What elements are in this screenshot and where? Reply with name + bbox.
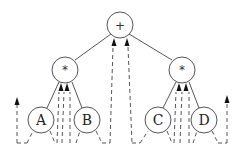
node-mul-right: * — [169, 57, 195, 83]
arrow-up-icon — [184, 83, 189, 91]
node-label: B — [82, 112, 92, 128]
node-label: * — [179, 63, 185, 77]
edge-right-d — [189, 82, 199, 108]
node-label: D — [198, 112, 209, 128]
edge-root-right — [129, 34, 172, 60]
edge-left-a — [47, 82, 59, 108]
node-label: * — [62, 63, 68, 77]
node-label: C — [153, 112, 164, 128]
edge-left-b — [72, 82, 82, 108]
arrow-up-icon — [125, 38, 130, 46]
arrow-up-icon — [112, 38, 117, 46]
expression-tree-diagram: + * * A B C D — [0, 0, 243, 152]
edge-right-c — [163, 82, 176, 108]
node-mul-left: * — [52, 57, 78, 83]
node-d: D — [191, 107, 217, 133]
arrow-up-icon — [65, 83, 70, 91]
arrow-up-icon — [177, 83, 182, 91]
node-c: C — [145, 107, 171, 133]
node-a: A — [28, 107, 54, 133]
arrow-up-icon — [225, 95, 230, 103]
node-label: + — [115, 19, 125, 33]
node-root: + — [107, 12, 133, 38]
edge-root-left — [75, 34, 111, 60]
arrow-up-icon — [59, 83, 64, 91]
node-b: B — [74, 107, 100, 133]
arrow-up-icon — [15, 97, 20, 105]
node-label: A — [35, 112, 47, 128]
